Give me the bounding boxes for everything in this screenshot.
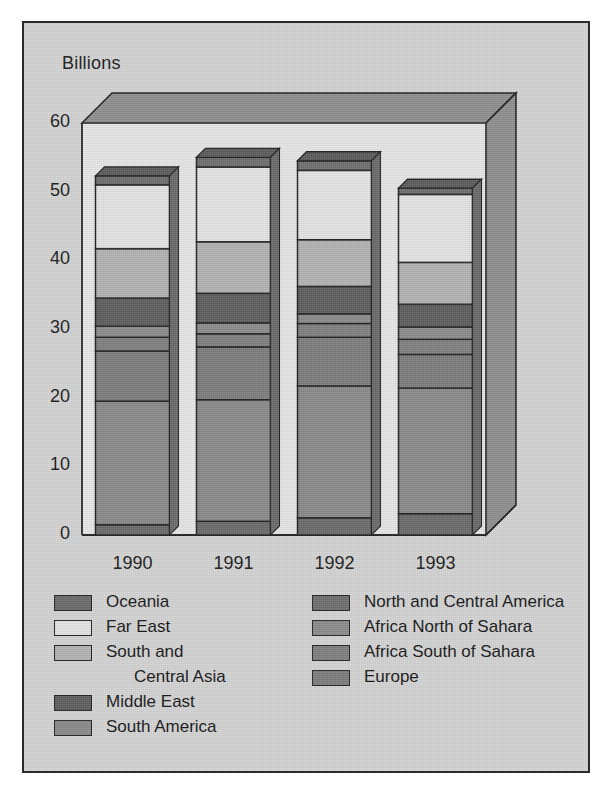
legend-swatch (54, 645, 92, 661)
y-axis-tick-label: 0 (24, 523, 70, 544)
legend-item: South America (54, 716, 304, 741)
y-axis-tick-labels: 0102030405060 (24, 23, 590, 583)
legend-item: Europe (312, 666, 582, 691)
legend-swatch (312, 620, 350, 636)
legend-item: Oceania (54, 591, 304, 616)
legend-label: South America (106, 717, 217, 737)
legend-item: Middle East (54, 691, 304, 716)
legend-label: Far East (106, 617, 170, 637)
legend-label: Africa North of Sahara (364, 617, 532, 637)
legend-column-right: North and Central AmericaAfrica North of… (312, 591, 582, 691)
legend-swatch (54, 720, 92, 736)
chart-figure: Billions 1990199119921993 0102030405060 … (22, 21, 590, 773)
legend-label: Middle East (106, 692, 195, 712)
legend-item: South and (54, 641, 304, 666)
legend-label: North and Central America (364, 592, 564, 612)
legend-label: South and (106, 642, 184, 662)
legend-column-left: OceaniaFar EastSouth andCentral AsiaMidd… (54, 591, 304, 741)
legend-swatch (312, 645, 350, 661)
legend-label: Africa South of Sahara (364, 642, 535, 662)
y-axis-tick-label: 30 (24, 317, 70, 338)
legend-item: Central Asia (54, 666, 304, 691)
legend-label: Central Asia (134, 667, 226, 687)
legend-item: Africa North of Sahara (312, 616, 582, 641)
legend-label: Europe (364, 667, 419, 687)
legend-item: North and Central America (312, 591, 582, 616)
legend-item: Far East (54, 616, 304, 641)
chart-legend: OceaniaFar EastSouth andCentral AsiaMidd… (24, 591, 590, 771)
y-axis-tick-label: 10 (24, 454, 70, 475)
legend-swatch (54, 620, 92, 636)
legend-label: Oceania (106, 592, 169, 612)
legend-item: Africa South of Sahara (312, 641, 582, 666)
y-axis-tick-label: 40 (24, 248, 70, 269)
y-axis-tick-label: 50 (24, 180, 70, 201)
legend-swatch (54, 595, 92, 611)
legend-swatch (312, 595, 350, 611)
legend-swatch (54, 695, 92, 711)
legend-swatch (312, 670, 350, 686)
y-axis-tick-label: 60 (24, 111, 70, 132)
y-axis-tick-label: 20 (24, 386, 70, 407)
